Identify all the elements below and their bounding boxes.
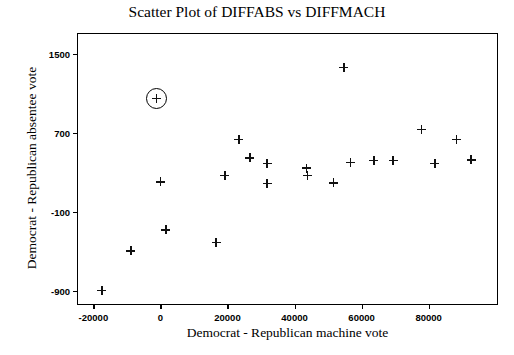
x-tick-mark (295, 304, 296, 309)
data-point-marker (389, 156, 398, 165)
scatter-plot-figure: Scatter Plot of DIFFABS vs DIFFMACH Demo… (0, 0, 514, 355)
data-point-marker (417, 125, 426, 134)
y-axis-label: Democrat - Republican absentee vote (24, 48, 40, 288)
x-tick-label: 80000 (415, 312, 441, 323)
chart-title: Scatter Plot of DIFFABS vs DIFFMACH (0, 3, 514, 21)
plot-area: 1500700-100-900 -20000020000400006000080… (77, 33, 498, 305)
data-point-marker (339, 63, 348, 72)
data-point-marker (126, 246, 135, 255)
data-point-marker (212, 238, 221, 247)
x-tick-mark (93, 304, 94, 309)
y-tick-label: 700 (54, 127, 70, 138)
y-tick-mark (73, 212, 78, 213)
data-point-marker (263, 179, 272, 188)
data-point-marker (430, 159, 439, 168)
y-tick-label: -900 (51, 286, 70, 297)
x-axis-label: Democrat - Republican machine vote (77, 325, 498, 341)
y-tick-mark (73, 133, 78, 134)
data-point-marker (467, 155, 476, 164)
data-point-marker (97, 286, 106, 295)
data-point-marker (263, 159, 272, 168)
highlighted-point-ring (146, 88, 167, 109)
y-tick-label: -100 (51, 207, 70, 218)
y-tick-mark (73, 291, 78, 292)
x-tick-label: 0 (158, 312, 163, 323)
x-tick-mark (160, 304, 161, 309)
y-tick-label: 1500 (49, 48, 70, 59)
x-tick-label: -20000 (79, 312, 109, 323)
x-tick-mark (227, 304, 228, 309)
data-point-marker (369, 156, 378, 165)
data-point-marker (452, 135, 461, 144)
data-point-marker (303, 171, 312, 180)
y-tick-mark (73, 54, 78, 55)
data-point-marker (245, 153, 254, 162)
data-point-marker (302, 164, 311, 173)
data-point-marker (220, 171, 229, 180)
x-tick-label: 60000 (348, 312, 374, 323)
data-point-marker (161, 225, 170, 234)
x-tick-label: 40000 (281, 312, 307, 323)
data-point-marker (346, 158, 355, 167)
data-point-marker (156, 177, 165, 186)
x-tick-mark (362, 304, 363, 309)
x-tick-mark (429, 304, 430, 309)
x-tick-label: 20000 (214, 312, 240, 323)
data-point-marker (234, 135, 243, 144)
data-point-marker (329, 178, 338, 187)
